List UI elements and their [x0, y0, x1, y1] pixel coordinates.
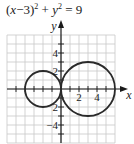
coordinate-plot: 24422−4xy — [0, 0, 134, 144]
y-tick-label: 2 — [53, 101, 59, 113]
y-axis-label: y — [50, 19, 57, 33]
y-tick-label: 2 — [53, 65, 59, 77]
y-tick-label: −4 — [46, 119, 58, 131]
y-axis-arrow-icon — [58, 20, 64, 28]
tick-labels: 24422−4xy — [46, 19, 132, 131]
x-tick-label: 2 — [76, 91, 82, 103]
x-tick-label: 4 — [94, 91, 100, 103]
x-axis-label: x — [125, 88, 132, 102]
y-tick-label: 4 — [53, 47, 59, 59]
